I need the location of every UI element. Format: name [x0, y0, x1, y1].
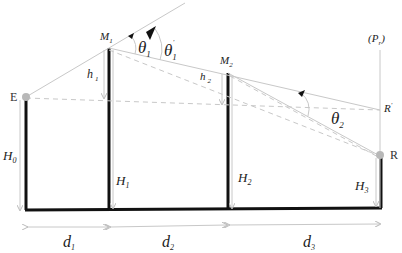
- label-d3: d3: [303, 233, 315, 252]
- arrow-d2: [110, 225, 227, 227]
- label-R-prime: R': [383, 101, 393, 114]
- label-theta1: θ1: [138, 38, 151, 59]
- node-R: [376, 151, 384, 159]
- node-E: [22, 93, 30, 101]
- ground-line: [25, 208, 382, 210]
- ray-E-M1-extended: [26, 3, 185, 97]
- dashed-M2-R: [230, 76, 380, 158]
- label-Pr: (Pr): [368, 32, 385, 47]
- height-arrows: [20, 50, 376, 210]
- label-E: E: [10, 90, 17, 104]
- label-H1: H1: [115, 173, 129, 190]
- arrow-d3: [229, 224, 380, 225]
- label-h2: h2: [200, 70, 212, 85]
- dashed-E-Rprime: [26, 98, 380, 110]
- label-H2: H2: [237, 170, 251, 187]
- label-h1: h1: [87, 67, 99, 83]
- label-H3: H3: [354, 178, 368, 195]
- label-d1: d1: [63, 233, 75, 252]
- rays: [26, 3, 380, 208]
- label-R: R: [390, 148, 398, 162]
- ray-M2-R: [228, 73, 380, 156]
- label-d2: d2: [162, 233, 174, 252]
- label-M1: M1: [99, 30, 113, 45]
- label-M2: M2: [219, 54, 233, 69]
- distance-arrows: [27, 224, 380, 227]
- label-theta2: θ2: [331, 109, 344, 130]
- arrowhead-theta1-prime: [146, 26, 156, 40]
- label-theta1-prime: θ1': [164, 38, 177, 62]
- diffraction-diagram: E R R' (Pr) M1 M2 h1 h2 H0 H1 H2 H3 θ1 θ…: [0, 0, 402, 253]
- arc-theta1-prime: [154, 27, 162, 60]
- label-H0: H0: [2, 148, 16, 165]
- dashed-M1-R: [109, 50, 380, 156]
- dashed-lines: [26, 50, 380, 158]
